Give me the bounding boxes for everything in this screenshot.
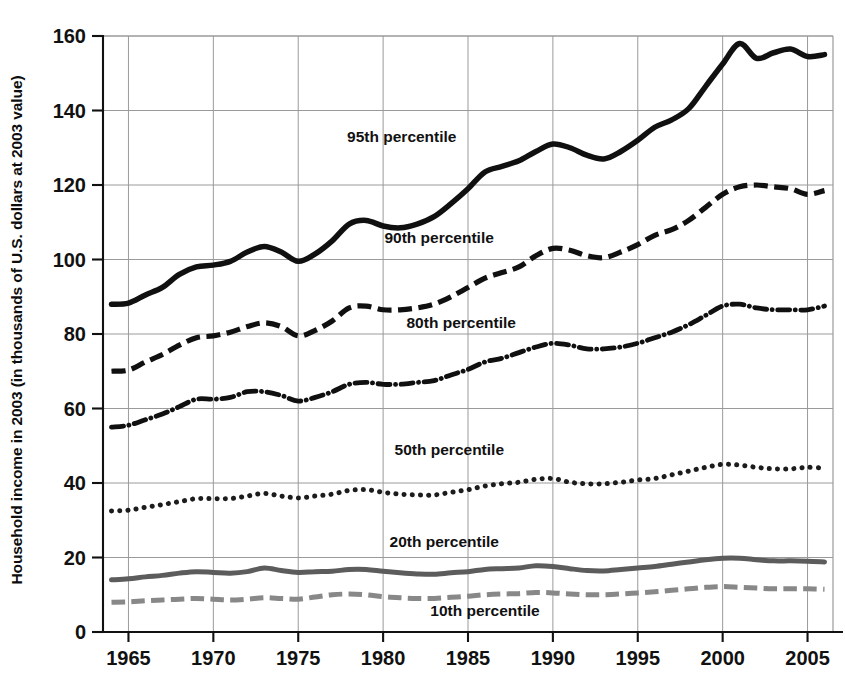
y-tick-label: 40: [64, 472, 86, 494]
x-tick-label: 1985: [446, 647, 491, 669]
x-tick-label: 2000: [700, 647, 745, 669]
y-tick-label: 100: [53, 249, 86, 271]
y-tick-label: 20: [64, 547, 86, 569]
series-label: 10th percentile: [430, 602, 540, 619]
series-label: 50th percentile: [395, 441, 505, 458]
series-label: 95th percentile: [347, 128, 457, 145]
series-label: 80th percentile: [407, 314, 517, 331]
y-tick-label: 160: [53, 25, 86, 47]
x-tick-labels: 196519701975198019851990199520002005: [106, 647, 830, 669]
y-tick-label: 140: [53, 100, 86, 122]
x-tick-label: 1995: [616, 647, 661, 669]
x-tick-label: 1990: [531, 647, 576, 669]
x-tick-label: 1980: [361, 647, 406, 669]
series-label: 90th percentile: [384, 229, 494, 246]
y-tick-label: 80: [64, 323, 86, 345]
y-tick-label: 60: [64, 398, 86, 420]
y-tick-label: 0: [75, 621, 86, 643]
x-tick-label: 1965: [106, 647, 151, 669]
series-label: 20th percentile: [390, 533, 500, 550]
x-tick-label: 2005: [785, 647, 830, 669]
line-chart-svg: 020406080100120140160 196519701975198019…: [0, 0, 845, 695]
y-axis-label-container: Household income in 2003 (in thousands o…: [0, 0, 34, 660]
x-tick-label: 1975: [276, 647, 321, 669]
y-axis-label: Household income in 2003 (in thousands o…: [8, 75, 26, 584]
x-tick-label: 1970: [191, 647, 236, 669]
y-tick-label: 120: [53, 174, 86, 196]
chart-figure: Household income in 2003 (in thousands o…: [0, 0, 845, 695]
chart-background: [0, 0, 845, 695]
